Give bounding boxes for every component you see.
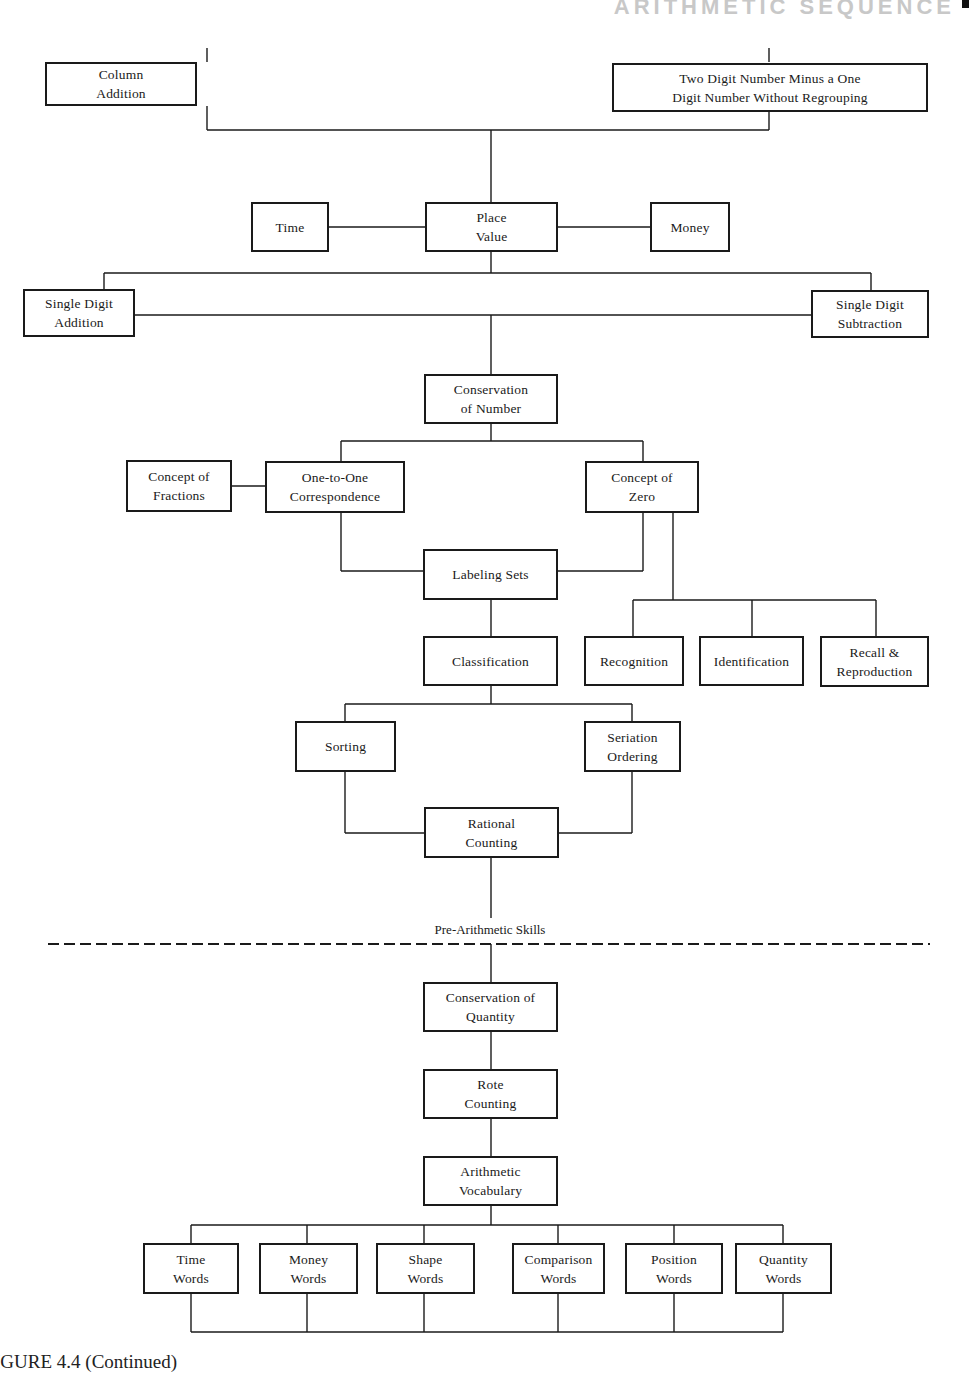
node-rote-counting: Rote Counting	[423, 1069, 558, 1119]
figure-caption: IGURE 4.4 (Continued)	[0, 1351, 177, 1373]
node-concept-of-zero: Concept of Zero	[585, 461, 699, 513]
node-rational-counting: Rational Counting	[424, 807, 559, 858]
node-place-value: Place Value	[425, 202, 558, 252]
node-recall-reproduction: Recall & Reproduction	[820, 636, 929, 687]
node-two-digit-minus-one-digit: Two Digit Number Minus a One Digit Numbe…	[612, 63, 928, 112]
node-single-digit-addition: Single Digit Addition	[23, 289, 135, 337]
node-time-words: Time Words	[143, 1243, 239, 1294]
node-conservation-of-quantity: Conservation of Quantity	[423, 982, 558, 1032]
divider-label: Pre-Arithmetic Skills	[390, 922, 590, 938]
node-seriation-ordering: Seriation Ordering	[584, 721, 681, 772]
node-comparison-words: Comparison Words	[512, 1243, 605, 1294]
node-concept-of-fractions: Concept of Fractions	[126, 460, 232, 512]
node-recognition: Recognition	[584, 636, 684, 686]
node-shape-words: Shape Words	[376, 1243, 475, 1294]
node-single-digit-subtraction: Single Digit Subtraction	[811, 290, 929, 338]
node-money: Money	[650, 202, 730, 252]
node-sorting: Sorting	[295, 721, 396, 772]
node-column-addition: Column Addition	[45, 62, 197, 106]
node-arithmetic-vocabulary: Arithmetic Vocabulary	[423, 1156, 558, 1206]
node-time: Time	[251, 202, 329, 252]
node-identification: Identification	[699, 636, 804, 686]
node-money-words: Money Words	[259, 1243, 358, 1294]
node-quantity-words: Quantity Words	[735, 1243, 832, 1294]
node-one-to-one-correspondence: One-to-One Correspondence	[265, 461, 405, 513]
node-classification: Classification	[423, 636, 558, 686]
node-conservation-of-number: Conservation of Number	[424, 374, 558, 424]
node-position-words: Position Words	[625, 1243, 723, 1294]
node-labeling-sets: Labeling Sets	[423, 549, 558, 600]
